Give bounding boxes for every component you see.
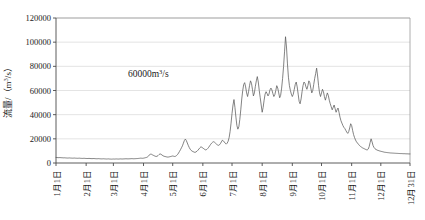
y-tick-label: 60000 — [30, 86, 51, 96]
y-tick-label: 20000 — [30, 134, 51, 144]
x-tick-label: 6月1日 — [198, 170, 208, 197]
x-tick-label: 2月1日 — [82, 170, 92, 197]
x-tick-label: 9月1日 — [288, 170, 298, 197]
chart-canvas: 020000400006000080000100000120000 1月1日2月… — [0, 0, 425, 220]
flow-annotation-label: 60000m3/s — [128, 68, 169, 79]
x-tick-label: 3月1日 — [109, 170, 119, 197]
x-tick-label: 5月1日 — [168, 170, 178, 197]
x-axis-ticks: 1月1日2月1日3月1日4月1日5月1日6月1日7月1日8月1日9月1日10月1… — [52, 163, 416, 205]
x-tick-label: 12月1日 — [376, 170, 386, 201]
chart-annotations: 60000m3/s — [128, 68, 169, 79]
x-tick-label: 11月1日 — [347, 170, 357, 200]
x-tick-label: 8月1日 — [258, 170, 268, 197]
y-tick-label: 80000 — [30, 61, 51, 71]
y-axis-title: 流量/（m3/s） — [2, 63, 13, 118]
y-tick-label: 120000 — [26, 13, 52, 23]
y-axis-ticks: 020000400006000080000100000120000 — [26, 13, 57, 168]
y-tick-label: 100000 — [26, 37, 52, 47]
y-axis-title-text: 流量/（m3/s） — [2, 63, 13, 118]
x-tick-label: 10月1日 — [317, 170, 327, 201]
x-tick-label: 1月1日 — [52, 170, 62, 197]
discharge-hydrograph-chart: 020000400006000080000100000120000 1月1日2月… — [0, 0, 425, 220]
x-tick-label: 4月1日 — [139, 170, 149, 197]
y-tick-label: 0 — [47, 158, 51, 168]
x-tick-label: 12月31日 — [406, 170, 416, 205]
x-tick-label: 7月1日 — [228, 170, 238, 197]
y-tick-label: 40000 — [30, 110, 51, 120]
